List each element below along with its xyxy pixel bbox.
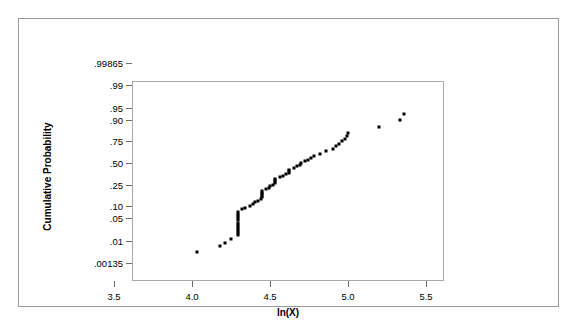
y-axis-tick <box>126 63 132 64</box>
y-axis-tick <box>126 85 132 86</box>
x-axis-tick <box>348 281 349 287</box>
x-axis-tick-label: 5.5 <box>406 291 446 302</box>
y-axis-tick-label: .99865 <box>63 58 123 69</box>
y-axis-tick-label: .25 <box>63 180 123 191</box>
scatter-point <box>195 250 198 253</box>
scatter-point <box>319 152 322 155</box>
x-axis-tick <box>192 281 193 287</box>
y-axis-tick <box>126 218 132 219</box>
y-axis-tick-label: .95 <box>63 103 123 114</box>
scatter-point <box>312 155 315 158</box>
scatter-point <box>337 143 340 146</box>
scatter-point <box>244 206 247 209</box>
y-axis-tick <box>126 185 132 186</box>
x-axis-tick-label: 3.5 <box>94 291 134 302</box>
x-axis-tick-label: 4.5 <box>250 291 290 302</box>
y-axis-tick-label: .50 <box>63 158 123 169</box>
plot-area <box>132 81 444 281</box>
scatter-point <box>344 137 347 140</box>
scatter-point <box>345 135 348 138</box>
scatter-point <box>347 132 350 135</box>
x-axis-tick <box>114 281 115 287</box>
scatter-point <box>219 244 222 247</box>
y-axis-tick <box>126 163 132 164</box>
chart-screenshot: Cumulative Probability .00135.01.05.10.2… <box>0 0 580 326</box>
y-axis-tick <box>126 206 132 207</box>
y-axis-tick <box>126 141 132 142</box>
scatter-point <box>288 168 291 171</box>
y-axis-tick <box>126 263 132 264</box>
scatter-point <box>224 241 227 244</box>
y-axis-tick-label: .90 <box>63 115 123 126</box>
scatter-point <box>236 210 239 213</box>
y-axis-tick <box>126 108 132 109</box>
y-axis-tick-label: .75 <box>63 135 123 146</box>
scatter-point <box>398 119 401 122</box>
scatter-points-layer <box>133 82 443 280</box>
y-axis-tick <box>126 241 132 242</box>
x-axis-tick-label: 4.0 <box>172 291 212 302</box>
y-axis-title: Cumulative Probability <box>42 107 53 247</box>
scatter-point <box>325 150 328 153</box>
figure-border: Cumulative Probability .00135.01.05.10.2… <box>18 18 559 307</box>
y-axis-tick-label: .99 <box>63 80 123 91</box>
y-axis-tick-label: .10 <box>63 200 123 211</box>
y-axis-tick-label: .05 <box>63 212 123 223</box>
scatter-point <box>378 126 381 129</box>
x-axis-tick <box>426 281 427 287</box>
x-axis-title: ln(X) <box>132 307 444 318</box>
y-axis-tick-labels: .00135.01.05.10.25.50.75.90.95.99.99865 <box>60 19 123 326</box>
y-axis-tick <box>126 120 132 121</box>
scatter-point <box>273 177 276 180</box>
y-axis-tick-label: .01 <box>63 235 123 246</box>
y-axis-tick-label: .00135 <box>63 258 123 269</box>
scatter-point <box>230 238 233 241</box>
x-axis-tick <box>270 281 271 287</box>
x-axis-tick-label: 5.0 <box>328 291 368 302</box>
scatter-point <box>403 112 406 115</box>
scatter-point <box>341 140 344 143</box>
